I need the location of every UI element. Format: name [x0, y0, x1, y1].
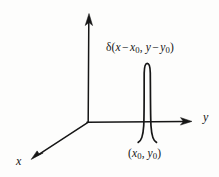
delta-minus-1: − — [121, 41, 130, 53]
x-axis-label: x — [16, 155, 21, 167]
delta-comma: , — [140, 41, 143, 53]
delta-var-x: x — [115, 41, 120, 53]
impulse-location-label: (x0, y0) — [128, 148, 161, 161]
delta-function-label: δ(x−x0, y−y0) — [106, 42, 174, 55]
point-close-paren: ) — [157, 147, 161, 159]
x-axis — [31, 122, 88, 159]
y-axis-label: y — [203, 111, 208, 123]
delta-function-figure: δ(x−x0, y−y0) (x0, y0) y x — [0, 0, 219, 177]
delta-impulse-spike — [138, 63, 156, 142]
delta-close-paren: ) — [170, 41, 174, 53]
figure-canvas — [0, 0, 219, 177]
y-axis — [87, 118, 192, 126]
point-comma: , — [142, 147, 145, 159]
delta-minus-2: − — [151, 41, 160, 53]
vertical-axis — [85, 14, 92, 123]
